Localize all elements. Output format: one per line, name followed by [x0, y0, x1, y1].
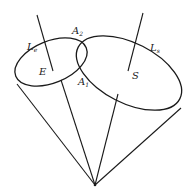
cone-diagram: Le A2 Ls E A1 S	[0, 0, 196, 196]
axis-line-le	[37, 15, 53, 71]
label-ls: Ls	[149, 42, 160, 54]
label-a2: A2	[71, 25, 83, 37]
cone-line-left-outer	[17, 84, 95, 185]
cone-line-right-outer	[95, 108, 181, 185]
apex-point	[94, 184, 97, 187]
axis-line-ls	[128, 13, 143, 71]
right-ellipse	[65, 20, 194, 125]
cone-line-right-inner	[95, 94, 118, 185]
cone-line-left-inner	[61, 80, 95, 185]
label-s: S	[132, 70, 139, 81]
label-e: E	[38, 66, 47, 77]
label-le: Le	[26, 41, 38, 53]
